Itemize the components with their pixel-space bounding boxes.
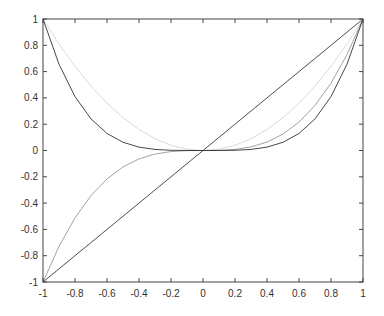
x-tick-label: 0.4 — [260, 288, 274, 299]
y-tick-label: 0.2 — [24, 119, 38, 130]
x-tick-label: 0.2 — [228, 288, 242, 299]
series-line-4 — [43, 19, 363, 151]
x-tick-label: -1 — [39, 288, 48, 299]
x-tick-label: -0.4 — [130, 288, 148, 299]
y-tick-label: -0.4 — [21, 198, 39, 209]
y-tick-label: 0.6 — [24, 66, 38, 77]
x-tick-label: 0.6 — [292, 288, 306, 299]
series-line-2 — [43, 19, 363, 151]
plot-lines — [43, 19, 363, 282]
y-tick-label: -0.8 — [21, 250, 39, 261]
y-tick-label: -1 — [29, 277, 38, 288]
x-tick-label: 1 — [360, 288, 366, 299]
y-tick-label: -0.6 — [21, 224, 39, 235]
x-tick-label: -0.8 — [66, 288, 84, 299]
y-tick-label: 0.4 — [24, 92, 38, 103]
x-tick-label: -0.6 — [98, 288, 116, 299]
y-tick-label: 0 — [32, 145, 38, 156]
x-axis: -1-0.8-0.6-0.4-0.200.20.40.60.81 — [39, 19, 367, 299]
y-tick-label: 1 — [32, 14, 38, 25]
y-tick-label: -0.2 — [21, 171, 39, 182]
x-tick-label: 0 — [200, 288, 206, 299]
x-tick-label: 0.8 — [324, 288, 338, 299]
x-tick-label: -0.2 — [162, 288, 180, 299]
y-tick-label: 0.8 — [24, 40, 38, 51]
line-chart: -1-0.8-0.6-0.4-0.200.20.40.60.81 -1-0.8-… — [0, 0, 384, 316]
